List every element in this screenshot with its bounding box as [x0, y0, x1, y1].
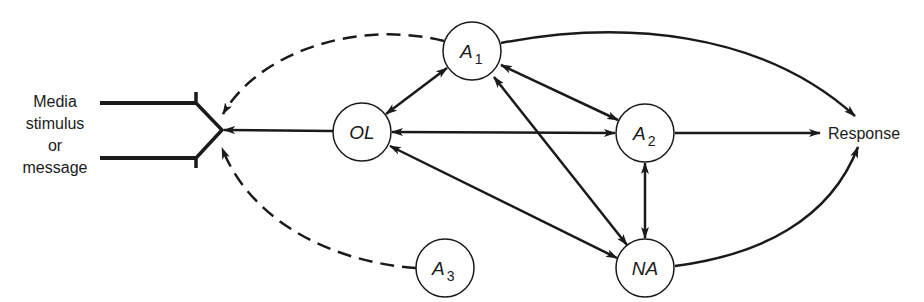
edge-a1-to-response [501, 32, 855, 116]
edge-ol-a2 [392, 132, 615, 133]
edge-na-to-response [675, 147, 858, 266]
edge-a3-to-message [222, 148, 416, 268]
diagram-canvas: A1 OL A2 NA A3 Media stimulus or message… [0, 0, 924, 302]
svg-text:OL: OL [349, 122, 374, 143]
edge-a1-a2 [501, 65, 618, 120]
edge-a1-to-message [223, 34, 444, 114]
node-na: NA [616, 239, 674, 297]
edge-ol-a1 [386, 68, 447, 114]
node-a1: A1 [443, 22, 501, 80]
node-ol: OL [333, 103, 391, 161]
node-a3: A3 [416, 239, 474, 297]
svg-text:Media: Media [33, 93, 77, 110]
media-input-bracket [100, 92, 222, 168]
svg-text:message: message [23, 159, 88, 176]
svg-text:or: or [48, 137, 63, 154]
edge-ol-na [390, 146, 617, 258]
svg-text:NA: NA [632, 258, 658, 279]
edge-ol-to-message [224, 130, 333, 131]
svg-text:stimulus: stimulus [26, 115, 85, 132]
response-label: Response [828, 125, 900, 142]
edge-a1-na [494, 77, 627, 245]
node-a2: A2 [616, 104, 674, 162]
media-stimulus-label: Media stimulus or message [23, 93, 88, 176]
